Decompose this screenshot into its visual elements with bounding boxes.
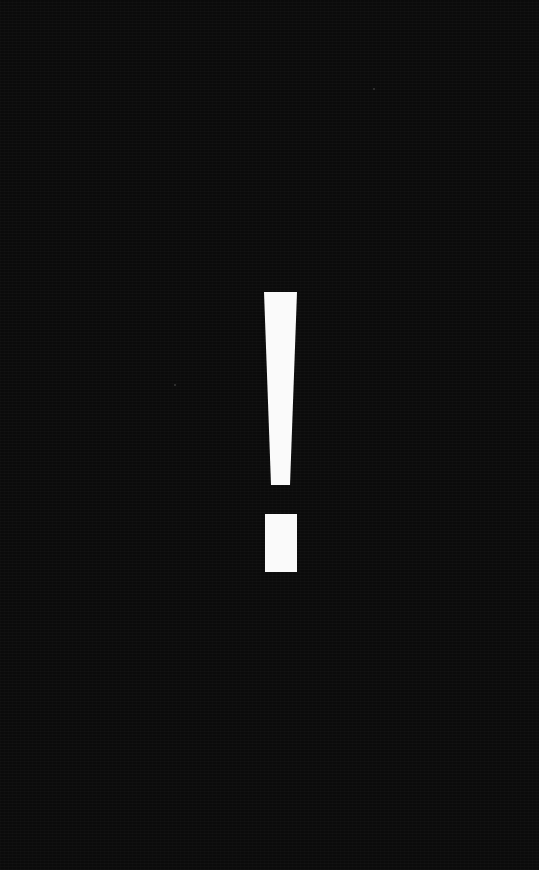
exclamation-dot [265, 514, 297, 572]
alert-screen: ! [0, 0, 539, 870]
noise-speck [373, 88, 375, 90]
exclamation-bar [264, 292, 297, 485]
noise-speck [174, 384, 176, 386]
exclamation-icon [0, 0, 539, 870]
